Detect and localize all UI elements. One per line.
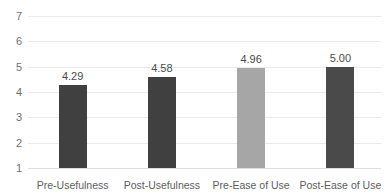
plot-area: 4.29Pre-Usefulness4.58Post-Usefulness4.9… [28,0,385,196]
y-axis-tick-label: 6 [2,36,22,47]
bar[interactable] [237,68,265,168]
bar-value-label: 5.00 [330,53,351,64]
bar-group: 4.96Pre-Ease of Use [237,0,265,196]
x-axis-category-label: Post-Usefulness [124,180,200,191]
bar-group: 5.00Post-Ease of Use [326,0,354,196]
bar-value-label: 4.96 [240,54,261,65]
x-axis-category-label: Pre-Usefulness [37,180,109,191]
bar[interactable] [326,67,354,168]
bar[interactable] [148,77,176,168]
y-axis-tick-label: 4 [2,87,22,98]
y-axis-tick-label: 2 [2,137,22,148]
bar-group: 4.29Pre-Usefulness [59,0,87,196]
y-axis: 7654321 [0,0,28,196]
bars: 4.29Pre-Usefulness4.58Post-Usefulness4.9… [28,0,385,196]
bar-chart: 7654321 4.29Pre-Usefulness4.58Post-Usefu… [0,0,385,196]
bar-value-label: 4.29 [62,71,83,82]
bar[interactable] [59,85,87,168]
bar-group: 4.58Post-Usefulness [148,0,176,196]
x-axis-category-label: Pre-Ease of Use [213,180,290,191]
y-axis-tick-label: 5 [2,61,22,72]
y-axis-tick-label: 7 [2,11,22,22]
bar-value-label: 4.58 [151,63,172,74]
x-axis-category-label: Post-Ease of Use [300,180,382,191]
y-axis-tick-label: 1 [2,163,22,174]
y-axis-tick-label: 3 [2,112,22,123]
